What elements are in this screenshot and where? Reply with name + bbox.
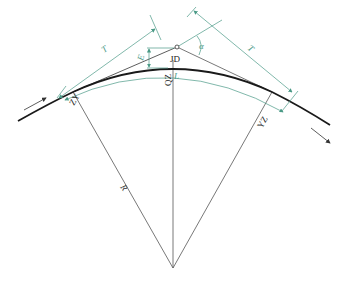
label-T-left: T [99, 43, 110, 55]
direction-arrow-right [311, 128, 330, 143]
label-jd: JD [170, 54, 181, 64]
curve-geometry-diagram: JD T T L E α ZY QZ YZ R [0, 0, 344, 287]
jd-point [175, 45, 179, 49]
label-qz: QZ [163, 74, 173, 86]
label-R: R [118, 182, 130, 193]
label-yz: YZ [255, 115, 270, 130]
dimension-T-right [187, 7, 298, 111]
radius-lines [73, 60, 272, 268]
label-L: L [173, 71, 179, 81]
label-T-right: T [246, 43, 257, 55]
label-E: E [135, 53, 146, 62]
label-alpha: α [199, 41, 204, 51]
